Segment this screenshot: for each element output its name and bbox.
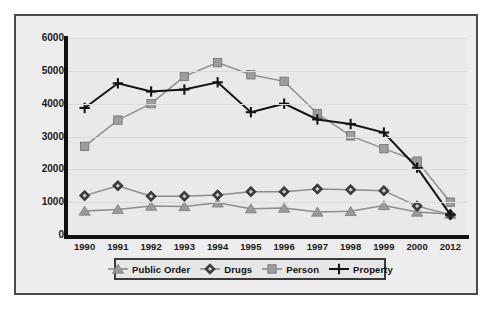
diamond-marker-icon [113, 180, 124, 191]
chart-screenshot: 0100020003000400050006000 19901991199219… [0, 0, 492, 310]
square-marker-icon [213, 58, 221, 66]
diamond-marker-icon [379, 185, 390, 196]
legend-item-drugs[interactable]: Drugs [199, 263, 252, 275]
triangle-marker-icon [107, 263, 129, 275]
diamond-marker-icon [205, 264, 216, 275]
plus-marker-icon [146, 86, 156, 96]
diamond-marker-icon [179, 191, 190, 202]
x-tick-label: 2012 [430, 242, 470, 252]
series-public-order [79, 198, 456, 218]
square-marker-icon [380, 144, 388, 152]
diamond-marker-icon [246, 186, 257, 197]
square-marker-icon [247, 71, 255, 79]
y-tick-label: 1000 [20, 197, 64, 207]
square-marker-icon [268, 265, 276, 273]
y-tick-label: 4000 [20, 99, 64, 109]
diamond-marker-icon [79, 190, 90, 201]
square-marker-icon [261, 263, 283, 275]
square-marker-icon [114, 116, 122, 124]
legend-label: Person [286, 264, 319, 275]
square-marker-icon [280, 77, 288, 85]
grid-line [68, 169, 467, 170]
y-tick-label: 0 [20, 230, 64, 240]
legend-label: Property [353, 264, 393, 275]
legend-item-property[interactable]: Property [328, 263, 393, 275]
y-tick-label: 2000 [20, 164, 64, 174]
diamond-marker-icon [312, 184, 323, 195]
square-marker-icon [180, 72, 188, 80]
series-person [80, 58, 454, 206]
plus-marker-icon [334, 264, 344, 274]
y-tick-label: 3000 [20, 132, 64, 142]
plus-marker-icon [345, 119, 355, 129]
grid-line [68, 137, 467, 138]
grid-line [68, 71, 467, 72]
legend-label: Public Order [132, 264, 190, 275]
diamond-marker-icon [146, 191, 157, 202]
plus-marker-icon [179, 84, 189, 94]
chart-card-background: 0100020003000400050006000 19901991199219… [16, 16, 476, 293]
y-axis-tick-labels: 0100020003000400050006000 [16, 16, 64, 293]
plot-area [68, 38, 467, 235]
chart-legend: Public OrderDrugsPersonProperty [114, 258, 386, 280]
y-tick-label: 5000 [20, 66, 64, 76]
diamond-marker-icon [212, 190, 223, 201]
grid-line [68, 104, 467, 105]
x-axis-line [64, 235, 469, 239]
legend-item-person[interactable]: Person [261, 263, 319, 275]
grid-line [68, 202, 467, 203]
grid-line [68, 38, 467, 39]
diamond-marker-icon [279, 186, 290, 197]
legend-label: Drugs [224, 264, 252, 275]
square-marker-icon [80, 142, 88, 150]
plus-marker-icon [328, 263, 350, 275]
diamond-marker-icon [199, 263, 221, 275]
chart-card: 0100020003000400050006000 19901991199219… [14, 14, 478, 295]
series-drugs [79, 180, 455, 219]
y-tick-label: 6000 [20, 33, 64, 43]
legend-item-public-order[interactable]: Public Order [107, 263, 190, 275]
diamond-marker-icon [345, 184, 356, 195]
